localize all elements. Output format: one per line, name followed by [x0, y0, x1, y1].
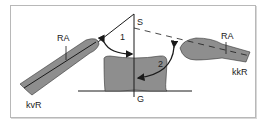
label-kvr: kvR — [26, 101, 42, 110]
label-g: G — [137, 95, 144, 104]
label-ra-right: RA — [221, 32, 234, 41]
label-s: S — [137, 18, 143, 27]
label-angle-1: 1 — [120, 33, 125, 42]
angle-1-arc — [104, 42, 132, 54]
label-kkr: kkR — [232, 68, 248, 77]
slanted-line — [98, 14, 134, 42]
label-angle-2: 2 — [158, 60, 163, 69]
label-ra-left: RA — [57, 34, 70, 43]
left-root-axis — [24, 42, 96, 88]
